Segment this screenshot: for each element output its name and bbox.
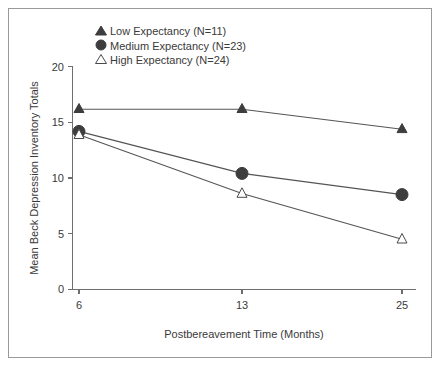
y-tick-label-10: 10 — [52, 172, 64, 184]
legend-label-high-expectancy: High Expectancy (N=24) — [110, 54, 230, 66]
y-tick-label-0: 0 — [58, 283, 64, 295]
open-triangle-icon — [96, 55, 107, 64]
series-low-expectancy — [74, 104, 407, 133]
x-tick-label-6: 6 — [76, 299, 82, 311]
x-axis-title: Postbereavement Time (Months) — [164, 328, 324, 340]
x-tick-label-13: 13 — [236, 299, 248, 311]
y-axis-title: Mean Beck Depression Inventory Totals — [28, 81, 40, 275]
data-point-low-6 — [74, 104, 84, 113]
y-tick-label-15: 15 — [52, 116, 64, 128]
data-point-medium-13 — [236, 167, 248, 179]
x-tick-label-25: 25 — [396, 299, 408, 311]
series-high-expectancy — [74, 129, 407, 243]
data-point-medium-25 — [396, 189, 408, 201]
legend-label-low-expectancy: Low Expectancy (N=11) — [110, 25, 226, 37]
legend-label-medium-expectancy: Medium Expectancy (N=23) — [110, 40, 246, 52]
axes: 20 15 10 5 0 6 13 25 Postbereavement Tim… — [28, 61, 416, 341]
data-point-low-25 — [397, 124, 407, 133]
y-tick-label-5: 5 — [58, 228, 64, 240]
filled-circle-icon — [96, 40, 106, 50]
y-tick-label-20: 20 — [52, 61, 64, 73]
chart-legend: Low Expectancy (N=11) Medium Expectancy … — [96, 25, 247, 66]
data-point-low-13 — [237, 104, 247, 113]
legend-item-high-expectancy: High Expectancy (N=24) — [96, 54, 230, 66]
filled-triangle-icon — [96, 26, 107, 35]
series-line-high-expectancy — [79, 135, 402, 240]
legend-item-low-expectancy: Low Expectancy (N=11) — [96, 25, 227, 37]
series-medium-expectancy — [73, 125, 408, 200]
line-chart: Low Expectancy (N=11) Medium Expectancy … — [0, 0, 441, 366]
chart-figure: Low Expectancy (N=11) Medium Expectancy … — [0, 0, 441, 366]
series-line-medium-expectancy — [79, 131, 402, 194]
legend-item-medium-expectancy: Medium Expectancy (N=23) — [96, 40, 246, 52]
